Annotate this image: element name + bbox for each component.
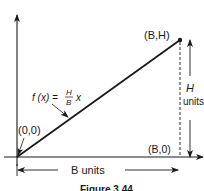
point-b-h-dot [178, 38, 182, 42]
figure-caption: Figure 3.44 [80, 184, 133, 191]
function-variable: x [75, 92, 82, 103]
width-label: B units [71, 164, 105, 176]
origin-label: (0,0) [18, 124, 41, 136]
function-numerator: H [66, 88, 72, 97]
height-symbol: H [186, 82, 194, 94]
point-b-0-label: (B,0) [148, 143, 171, 155]
diagram-canvas: (B,H) (0,0) (B,0) f (x) = H B x H units … [0, 0, 204, 191]
height-unit: units [183, 96, 204, 107]
function-lhs: f (x) = [32, 92, 58, 103]
function-denominator: B [66, 98, 72, 107]
point-b-h-label: (B,H) [144, 29, 170, 41]
